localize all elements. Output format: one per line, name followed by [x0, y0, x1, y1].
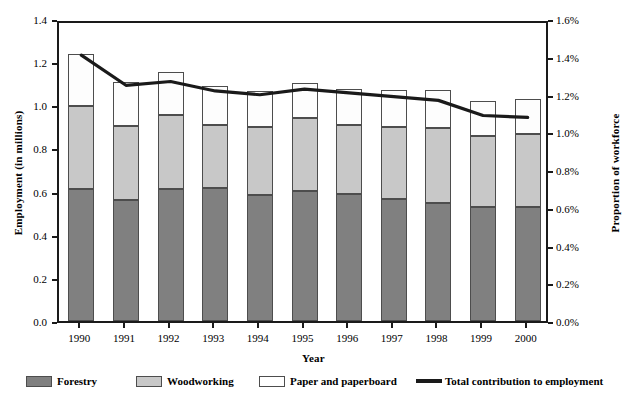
bar-segment-forestry: [336, 194, 362, 321]
bar-segment-paper-and-paperboard: [158, 72, 184, 115]
bar-group: [381, 19, 407, 321]
bar-segment-paper-and-paperboard: [515, 99, 541, 135]
bar-segment-paper-and-paperboard: [68, 54, 94, 107]
x-axis-tick-label: 1998: [414, 332, 458, 344]
bar-segment-paper-and-paperboard: [470, 101, 496, 136]
y-axis-right-tick-label: 0.0%: [556, 317, 616, 328]
bar-segment-forestry: [247, 195, 273, 321]
legend-swatch-forestry: [26, 376, 52, 387]
legend-label: Woodworking: [167, 375, 234, 387]
y-axis-right-tick: [548, 284, 553, 286]
y-axis-left-tick-label: 0.0: [0, 317, 47, 328]
x-axis-tick-label: 1991: [102, 332, 146, 344]
bar-segment-woodworking: [425, 128, 451, 204]
bar-segment-forestry: [381, 199, 407, 321]
y-axis-left-tick-label: 0.6: [0, 188, 47, 199]
y-axis-right-tick: [548, 133, 553, 135]
bar-segment-paper-and-paperboard: [247, 91, 273, 127]
y-axis-left-tick-label: 0.8: [0, 144, 47, 155]
bar-segment-forestry: [425, 203, 451, 321]
y-axis-left-title: Employment (in millions): [12, 58, 24, 288]
bar-group: [425, 19, 451, 321]
bar-segment-forestry: [470, 207, 496, 321]
y-axis-left-tick-label: 1.4: [0, 15, 47, 26]
bar-segment-woodworking: [68, 106, 94, 189]
y-axis-right-tick-label: 0.2%: [556, 279, 616, 290]
legend-line-marker: [416, 379, 442, 383]
bar-group: [202, 19, 228, 321]
x-axis-tick-label: 1995: [281, 332, 325, 344]
plot-inner: [59, 23, 546, 321]
x-axis-tick-label: 1996: [325, 332, 369, 344]
bar-segment-forestry: [202, 188, 228, 321]
legend-item[interactable]: Paper and paperboard: [259, 372, 397, 390]
bar-segment-woodworking: [158, 115, 184, 189]
y-axis-right-tick-label: 0.6%: [556, 204, 616, 215]
bar-segment-woodworking: [515, 134, 541, 206]
bar-segment-paper-and-paperboard: [292, 83, 318, 119]
y-axis-left-tick-label: 1.0: [0, 101, 47, 112]
bar-segment-forestry: [158, 189, 184, 321]
y-axis-right-tick: [548, 209, 553, 211]
y-axis-right-tick-label: 0.4%: [556, 242, 616, 253]
plot-area: [57, 21, 548, 323]
x-axis-tick: [525, 323, 527, 328]
y-axis-right-tick: [548, 247, 553, 249]
y-axis-left-tick-label: 0.2: [0, 274, 47, 285]
x-axis-title: Year: [0, 352, 627, 364]
bar-group: [68, 19, 94, 321]
bar-segment-paper-and-paperboard: [202, 86, 228, 125]
bar-segment-forestry: [515, 207, 541, 321]
x-axis-tick-label: 1993: [191, 332, 235, 344]
bar-segment-woodworking: [336, 125, 362, 194]
y-axis-right-tick-label: 1.6%: [556, 15, 616, 26]
legend-swatch-paper-and-paperboard: [259, 376, 285, 387]
chart-legend: ForestryWoodworkingPaper and paperboardT…: [0, 372, 627, 394]
bar-segment-forestry: [113, 200, 139, 321]
legend-item[interactable]: Total contribution to employment: [416, 372, 603, 390]
x-axis-tick: [302, 323, 304, 328]
y-axis-right-tick: [548, 322, 553, 324]
y-axis-right-tick: [548, 171, 553, 173]
bar-segment-woodworking: [247, 127, 273, 195]
x-axis-tick: [391, 323, 393, 328]
y-axis-right-tick: [548, 96, 553, 98]
x-axis-tick: [480, 323, 482, 328]
x-axis-tick: [212, 323, 214, 328]
x-axis-tick-label: 1992: [147, 332, 191, 344]
bar-segment-woodworking: [381, 127, 407, 199]
y-axis-right-tick-label: 1.0%: [556, 128, 616, 139]
bar-segment-forestry: [292, 191, 318, 322]
legend-item[interactable]: Woodworking: [136, 372, 234, 390]
y-axis-right-tick-label: 1.2%: [556, 91, 616, 102]
x-axis-tick: [435, 323, 437, 328]
bar-segment-paper-and-paperboard: [336, 89, 362, 125]
x-axis-tick: [168, 323, 170, 328]
bar-segment-paper-and-paperboard: [113, 82, 139, 126]
x-axis-tick-label: 1999: [459, 332, 503, 344]
y-axis-left-tick-label: 0.4: [0, 231, 47, 242]
bar-group: [515, 19, 541, 321]
legend-item[interactable]: Forestry: [26, 372, 97, 390]
x-axis-tick: [346, 323, 348, 328]
x-axis-tick-label: 2000: [504, 332, 548, 344]
bar-group: [113, 19, 139, 321]
bar-segment-woodworking: [470, 136, 496, 207]
x-axis-tick: [78, 323, 80, 328]
bar-group: [292, 19, 318, 321]
employment-stacked-bar-chart: Employment (in millions) Proportion of w…: [0, 0, 627, 404]
x-axis-tick-label: 1990: [57, 332, 101, 344]
bar-group: [336, 19, 362, 321]
x-axis-tick: [257, 323, 259, 328]
bar-group: [470, 19, 496, 321]
x-axis-tick-label: 1997: [370, 332, 414, 344]
bar-group: [158, 19, 184, 321]
y-axis-right-tick-label: 0.8%: [556, 166, 616, 177]
x-axis-tick-label: 1994: [236, 332, 280, 344]
legend-label: Forestry: [57, 375, 97, 387]
bar-group: [247, 19, 273, 321]
bar-segment-paper-and-paperboard: [425, 90, 451, 128]
bar-segment-forestry: [68, 189, 94, 321]
y-axis-right-tick: [548, 58, 553, 60]
y-axis-left-tick-label: 1.2: [0, 58, 47, 69]
